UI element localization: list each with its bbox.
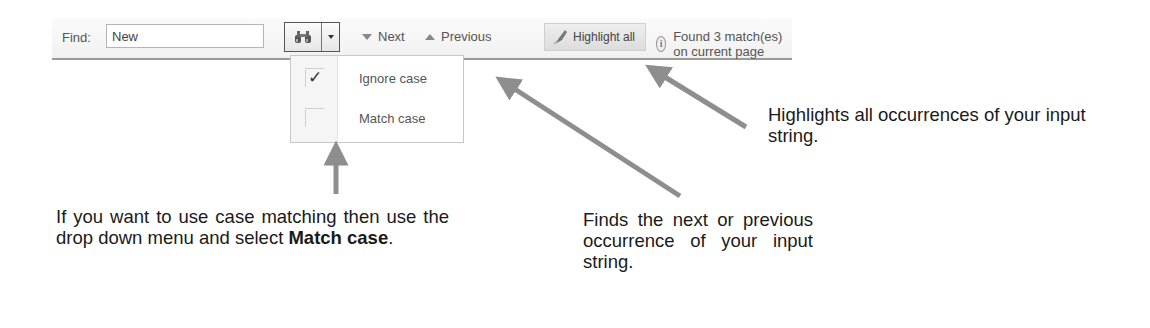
annotation-case-bold: Match case bbox=[288, 227, 388, 248]
annotation-next-previous: Finds the next or previous occurrence of… bbox=[583, 209, 813, 272]
annotation-case-end: . bbox=[388, 227, 393, 248]
annotation-case-matching: If you want to use case matching then us… bbox=[56, 206, 449, 248]
annotation-highlight-all: Highlights all occurrences of your input… bbox=[768, 104, 1108, 146]
arrow-to-next-previous bbox=[510, 86, 680, 196]
arrow-to-highlight-all bbox=[660, 74, 746, 127]
callout-arrows bbox=[0, 0, 1150, 328]
